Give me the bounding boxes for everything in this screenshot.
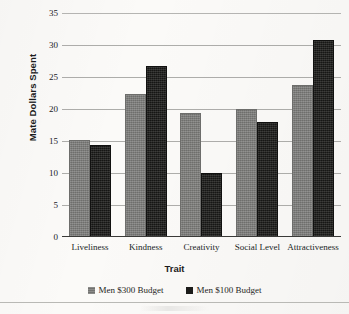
y-axis-tick-label: 10	[26, 168, 58, 178]
bar-group	[118, 13, 174, 237]
y-axis-tick-label: 0	[26, 232, 58, 242]
y-axis-tick-label: 30	[26, 40, 58, 50]
bar[interactable]	[313, 40, 334, 237]
y-axis-tick-label: 20	[26, 104, 58, 114]
black-swatch	[186, 287, 193, 294]
bar[interactable]	[257, 122, 278, 237]
y-axis-tick-label: 25	[26, 72, 58, 82]
x-axis-category-label: Social Level	[229, 242, 285, 252]
bar-group	[285, 13, 341, 237]
bar-groups	[62, 13, 341, 237]
x-axis-category-label: Kindness	[118, 242, 174, 252]
bar-group	[229, 13, 285, 237]
plot-area	[62, 13, 341, 237]
legend-item[interactable]: Men $300 Budget	[88, 285, 164, 295]
y-axis-tick-label: 15	[26, 136, 58, 146]
chart-page: Mate Dollars Spent 05101520253035 Liveli…	[0, 0, 349, 314]
bar[interactable]	[90, 145, 111, 237]
x-axis-title: Trait	[0, 263, 349, 274]
x-axis-category-labels: LivelinessKindnessCreativitySocial Level…	[62, 242, 341, 252]
page-scan-artifact	[140, 306, 210, 311]
legend-label: Men $100 Budget	[197, 285, 262, 295]
page-divider-rule	[0, 302, 349, 303]
y-axis-tick-label: 5	[26, 200, 58, 210]
y-axis-tick-label: 35	[26, 8, 58, 18]
bar[interactable]	[236, 109, 257, 237]
x-axis-category-label: Creativity	[174, 242, 230, 252]
chart-legend: Men $300 BudgetMen $100 Budget	[0, 285, 349, 295]
bar[interactable]	[292, 85, 313, 237]
legend-label: Men $300 Budget	[99, 285, 164, 295]
legend-item[interactable]: Men $100 Budget	[186, 285, 262, 295]
x-axis-line	[62, 236, 341, 237]
x-axis-category-label: Liveliness	[62, 242, 118, 252]
bar[interactable]	[69, 140, 90, 237]
bar-group	[62, 13, 118, 237]
x-axis-category-label: Attractiveness	[285, 242, 341, 252]
bar[interactable]	[180, 113, 201, 237]
bar-group	[174, 13, 230, 237]
bar[interactable]	[201, 173, 222, 237]
bar[interactable]	[125, 94, 146, 237]
gray-swatch	[88, 287, 95, 294]
bar[interactable]	[146, 66, 167, 237]
